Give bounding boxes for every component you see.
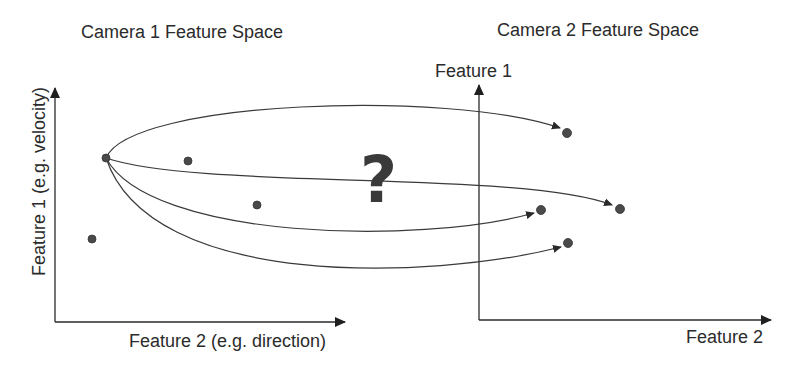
data-point xyxy=(184,157,192,165)
camera2-title: Camera 2 Feature Space xyxy=(497,20,699,41)
camera1-title: Camera 1 Feature Space xyxy=(81,22,283,43)
camera2-points xyxy=(537,129,625,248)
target-point xyxy=(563,129,572,138)
target-point xyxy=(616,205,625,214)
camera1-axes xyxy=(55,88,345,322)
camera2-axes xyxy=(479,85,771,320)
target-point xyxy=(564,239,573,248)
question-mark: ? xyxy=(360,148,397,212)
camera1-points xyxy=(88,154,261,243)
correspondence-curves xyxy=(106,105,612,268)
camera2-y-axis-label: Feature 1 xyxy=(435,61,512,82)
camera2-x-axis-label: Feature 2 xyxy=(686,327,763,348)
data-point xyxy=(88,235,96,243)
camera1-x-axis-label: Feature 2 (e.g. direction) xyxy=(129,331,326,352)
curve-to-point-3 xyxy=(106,158,534,231)
curve-to-point-4 xyxy=(106,158,561,268)
curve-to-point-1 xyxy=(106,105,560,158)
target-point xyxy=(537,206,546,215)
source-point xyxy=(102,154,110,162)
data-point xyxy=(253,201,261,209)
camera1-y-axis-label: Feature 1 (e.g. velocity) xyxy=(29,87,50,276)
feature-space-diagram xyxy=(0,0,799,367)
curve-to-point-2 xyxy=(106,158,612,205)
